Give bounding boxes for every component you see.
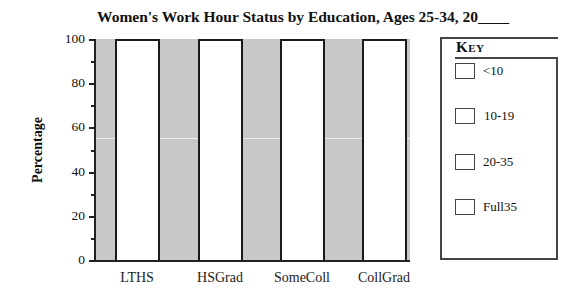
legend-label: Full35 bbox=[483, 199, 517, 215]
x-axis bbox=[94, 260, 410, 262]
y-minor-tick-70 bbox=[91, 105, 95, 107]
legend-label: 10-19 bbox=[484, 108, 514, 124]
legend-label: <10 bbox=[483, 63, 503, 79]
bar-lths bbox=[115, 39, 160, 261]
y-tick-40 bbox=[89, 172, 95, 174]
y-tick-label: 0 bbox=[55, 252, 85, 268]
chart-title: Women's Work Hour Status by Education, A… bbox=[0, 8, 583, 26]
x-label-collgrad: CollGrad bbox=[344, 270, 424, 286]
legend-swatch-20-35 bbox=[455, 154, 475, 170]
y-tick-80 bbox=[89, 83, 95, 85]
legend-swatch-10-19 bbox=[455, 108, 475, 124]
bar-somecoll bbox=[280, 39, 325, 261]
plot-area bbox=[96, 39, 410, 261]
y-axis-title: Percentage bbox=[30, 117, 46, 183]
y-minor-tick-30 bbox=[91, 194, 95, 196]
y-tick-20 bbox=[89, 216, 95, 218]
y-minor-tick-90 bbox=[91, 61, 95, 63]
y-tick-label: 20 bbox=[55, 208, 85, 224]
y-minor-tick-10 bbox=[91, 238, 95, 240]
legend-title: Key bbox=[456, 39, 484, 56]
legend-border-bottom bbox=[440, 258, 558, 260]
y-tick-0 bbox=[89, 260, 95, 262]
x-label-hsgrad: HSGrad bbox=[180, 270, 260, 286]
legend-border-left bbox=[440, 37, 442, 260]
y-minor-tick-50 bbox=[91, 150, 95, 152]
y-tick-label: 60 bbox=[55, 119, 85, 135]
x-label-somecoll: SomeColl bbox=[262, 270, 342, 286]
legend-swatch-lt10 bbox=[455, 63, 475, 79]
legend-title-underline bbox=[455, 57, 558, 59]
y-tick-label: 80 bbox=[55, 75, 85, 91]
bar-hsgrad bbox=[198, 39, 243, 261]
legend-swatch-full35 bbox=[455, 199, 475, 215]
bar-collgrad bbox=[362, 39, 407, 261]
y-tick-60 bbox=[89, 127, 95, 129]
x-label-lths: LTHS bbox=[97, 270, 177, 286]
y-tick-100 bbox=[89, 39, 95, 41]
y-tick-label: 100 bbox=[55, 31, 85, 47]
legend-border-right bbox=[556, 57, 558, 260]
y-tick-label: 40 bbox=[55, 164, 85, 180]
legend-label: 20-35 bbox=[483, 154, 513, 170]
